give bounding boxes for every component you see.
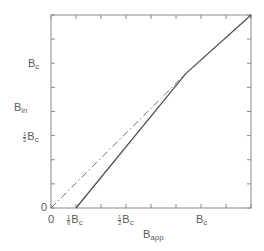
y-axis-title-sub: in <box>21 106 27 115</box>
y-tick-label-bc: Bc <box>28 57 39 73</box>
y-tick-label-half-main: B <box>27 130 34 142</box>
y-axis-title: Bin <box>14 101 28 117</box>
plot-frame <box>51 15 251 208</box>
fraction-sixth: 16 <box>67 215 70 226</box>
y-tick-label-half-sub: c <box>35 135 39 144</box>
x-origin-text: 0 <box>48 213 54 225</box>
x-axis-title: Bapp <box>143 228 164 244</box>
b-in-curve <box>76 15 251 208</box>
y-origin-text: 0 <box>41 201 47 213</box>
x-tick-label-half-main: B <box>122 213 129 225</box>
x-tick-label-bc-sub: c <box>203 218 207 227</box>
axis-ticks <box>51 15 251 208</box>
reference-diagonal-line <box>51 73 186 208</box>
x-tick-label-sixth-sub: c <box>79 218 83 227</box>
x-tick-label-half-sub: c <box>130 218 134 227</box>
fraction-half-x: 12 <box>118 215 121 226</box>
x-tick-label-half-bc: 12Bc <box>118 213 134 229</box>
data-series <box>51 15 251 208</box>
fraction-half: 12 <box>23 132 26 143</box>
x-tick-label-bc: Bc <box>196 213 207 229</box>
x-tick-label-sixth-bc: 16Bc <box>67 213 83 229</box>
y-tick-label-zero: 0 <box>41 201 47 213</box>
y-tick-label-bc-sub: c <box>35 62 39 71</box>
y-tick-label-half-bc: 12Bc <box>23 130 39 146</box>
x-tick-label-sixth-main: B <box>71 213 78 225</box>
x-axis-title-sub: app <box>150 233 163 242</box>
x-tick-label-zero: 0 <box>48 213 54 225</box>
